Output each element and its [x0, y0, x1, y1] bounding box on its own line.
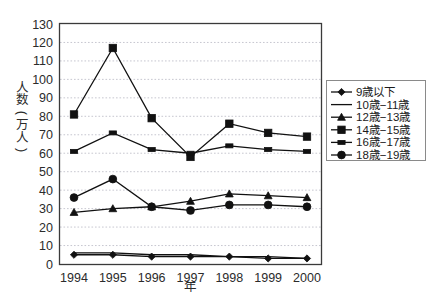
y-tick-label: 20: [39, 221, 53, 235]
x-axis-title: 年: [184, 280, 197, 294]
line-chart: 0102030405060708090100110120130 19941995…: [0, 0, 430, 296]
legend: 9歳以下10歳−11歳12歳−13歳14歳−15歳16歳−17歳18歳−19歳: [327, 81, 426, 162]
legend-label[interactable]: 14歳−15歳: [356, 124, 411, 136]
data-point-marker: [265, 255, 272, 262]
data-point-marker: [148, 148, 155, 152]
data-point-marker: [70, 251, 77, 258]
y-axis-title-char: 人: [16, 131, 29, 145]
grid-lines: [60, 42, 321, 245]
y-tick-label: 120: [32, 36, 53, 50]
legend-label[interactable]: 16歳−17歳: [356, 136, 411, 148]
data-point-marker: [109, 175, 117, 183]
y-tick-label: 10: [39, 239, 53, 253]
data-point-marker: [338, 151, 346, 159]
data-point-marker: [264, 129, 271, 136]
y-tick-label: 30: [39, 202, 53, 216]
x-tick-label: 1994: [60, 271, 88, 285]
series-line: [74, 48, 307, 157]
y-axis-title: 人数(万人): [15, 81, 29, 152]
y-tick-label: 60: [39, 147, 53, 161]
y-tick-label: 0: [46, 258, 53, 272]
series-3: [70, 44, 310, 160]
data-point-marker: [70, 194, 78, 202]
legend-label[interactable]: 9歳以下: [356, 86, 395, 98]
y-axis-title-char: 数: [16, 92, 29, 107]
y-axis-tick-labels: 0102030405060708090100110120130: [32, 18, 53, 272]
x-tick-label: 2000: [293, 271, 321, 285]
y-tick-label: 100: [32, 73, 53, 87]
data-point-marker: [148, 203, 156, 211]
data-point-marker: [338, 126, 345, 133]
data-point-marker: [70, 149, 77, 153]
legend-label[interactable]: 18歳−19歳: [356, 149, 411, 161]
y-tick-label: 130: [32, 18, 53, 32]
data-point-marker: [226, 144, 233, 148]
x-tick-label: 1999: [254, 271, 282, 285]
y-tick-label: 40: [39, 184, 53, 198]
data-point-marker: [109, 44, 116, 51]
y-tick-label: 50: [39, 165, 53, 179]
data-point-marker: [70, 111, 77, 118]
x-tick-label: 1996: [138, 271, 166, 285]
data-point-marker: [187, 207, 195, 215]
chart-container: 0102030405060708090100110120130 19941995…: [0, 0, 430, 296]
data-point-marker: [265, 148, 272, 152]
y-axis-title-char: (: [15, 111, 29, 116]
x-tick-label: 1998: [215, 271, 243, 285]
y-axis-title-char: ): [15, 148, 29, 152]
y-tick-label: 110: [33, 54, 53, 68]
data-point-marker: [303, 203, 311, 211]
y-tick-label: 70: [39, 128, 53, 142]
y-tick-label: 90: [39, 91, 53, 105]
data-point-marker: [303, 149, 310, 153]
data-point-marker: [338, 140, 345, 144]
data-point-marker: [303, 133, 310, 140]
data-point-marker: [226, 120, 233, 127]
legend-label[interactable]: 10歳−11歳: [356, 99, 410, 111]
data-point-marker: [109, 131, 116, 135]
data-point-marker: [187, 151, 194, 155]
data-point-marker: [187, 253, 194, 260]
legend-label[interactable]: 12歳−13歳: [356, 111, 411, 123]
data-point-marker: [109, 251, 116, 258]
data-point-marker: [225, 201, 233, 209]
y-tick-label: 80: [39, 110, 53, 124]
plot-frame: [60, 24, 322, 265]
data-point-marker: [264, 201, 272, 209]
x-tick-label: 1995: [99, 271, 127, 285]
data-point-marker: [148, 114, 155, 121]
